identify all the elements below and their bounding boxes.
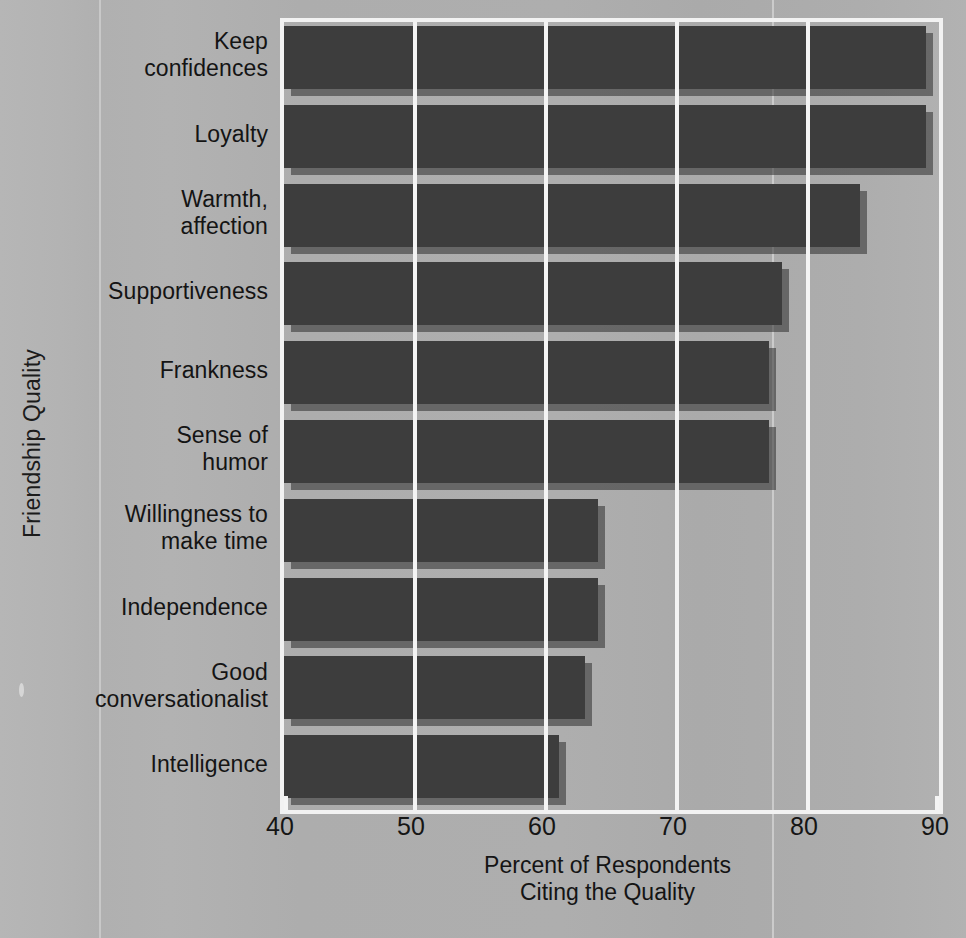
category-label-line: Keep	[60, 28, 268, 55]
category-label-line: Intelligence	[60, 751, 268, 778]
category-label-8: Independence	[60, 594, 268, 621]
category-label-2: Loyalty	[60, 121, 268, 148]
x-tick-label-60: 60	[512, 812, 572, 841]
bar-body	[284, 184, 860, 247]
x-tick-label-80: 80	[774, 812, 834, 841]
category-label-10: Intelligence	[60, 751, 268, 778]
bar-body	[284, 26, 926, 89]
category-label-line: Willingness to	[60, 501, 268, 528]
category-axis-labels: KeepconfidencesLoyaltyWarmth,affectionSu…	[60, 18, 268, 806]
gridline-60	[544, 22, 548, 810]
x-tick-50	[413, 796, 417, 810]
bar-body	[284, 262, 782, 325]
x-tick-label-40: 40	[250, 812, 310, 841]
category-label-line: humor	[60, 449, 268, 476]
plot-frame	[280, 18, 943, 814]
category-label-line: Warmth,	[60, 186, 268, 213]
category-label-line: conversationalist	[60, 686, 268, 713]
bar-body	[284, 735, 559, 798]
category-label-6: Sense ofhumor	[60, 422, 268, 476]
gridline-80	[806, 22, 810, 810]
x-tick-70	[675, 796, 679, 810]
category-label-9: Goodconversationalist	[60, 659, 268, 713]
x-tick-label-50: 50	[381, 812, 441, 841]
gridline-70	[675, 22, 679, 810]
category-label-7: Willingness tomake time	[60, 501, 268, 555]
x-tick-label-70: 70	[643, 812, 703, 841]
category-label-4: Supportiveness	[60, 278, 268, 305]
x-tick-label-90: 90	[905, 812, 965, 841]
category-label-line: Supportiveness	[60, 278, 268, 305]
category-label-line: confidences	[60, 55, 268, 82]
category-label-3: Warmth,affection	[60, 186, 268, 240]
y-axis-title: Friendship Quality	[19, 334, 46, 554]
category-label-line: make time	[60, 528, 268, 555]
gridline-50	[413, 22, 417, 810]
category-label-line: Good	[60, 659, 268, 686]
category-label-5: Frankness	[60, 357, 268, 384]
category-label-line: Independence	[60, 594, 268, 621]
bar-body	[284, 656, 585, 719]
category-label-line: affection	[60, 213, 268, 240]
x-tick-80	[806, 796, 810, 810]
x-axis-title-line2: Citing the Quality	[280, 879, 935, 906]
bar-body	[284, 105, 926, 168]
x-axis-title-line1: Percent of Respondents	[484, 852, 731, 878]
category-label-line: Frankness	[60, 357, 268, 384]
plot-area	[284, 22, 939, 810]
category-label-line: Loyalty	[60, 121, 268, 148]
x-tick-90	[935, 796, 939, 810]
bar-body	[284, 578, 598, 641]
bar-body	[284, 420, 769, 483]
bar-body	[284, 499, 598, 562]
chart-page: Friendship Quality KeepconfidencesLoyalt…	[0, 0, 966, 938]
bar-chart: Friendship Quality KeepconfidencesLoyalt…	[0, 0, 966, 938]
x-tick-40	[284, 796, 288, 810]
category-label-1: Keepconfidences	[60, 28, 268, 82]
x-tick-60	[544, 796, 548, 810]
x-axis-tick-labels: 405060708090	[280, 812, 935, 848]
category-label-line: Sense of	[60, 422, 268, 449]
x-axis-title: Percent of Respondents Citing the Qualit…	[280, 852, 935, 906]
bar-body	[284, 341, 769, 404]
